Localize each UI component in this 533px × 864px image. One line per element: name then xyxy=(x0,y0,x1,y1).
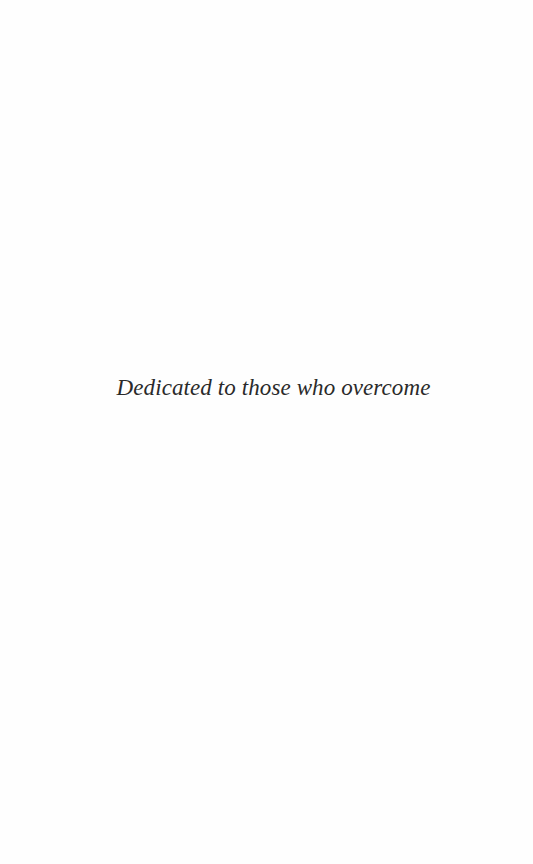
dedication-page: Dedicated to those who overcome xyxy=(0,0,533,864)
dedication-text: Dedicated to those who overcome xyxy=(0,373,533,403)
